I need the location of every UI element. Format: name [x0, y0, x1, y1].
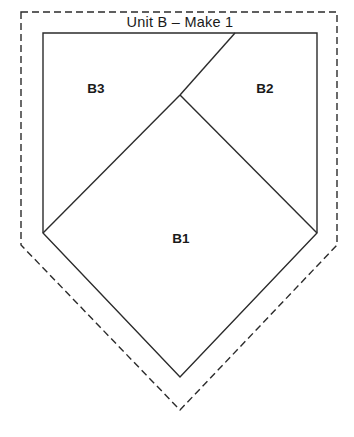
seam-line-b1-b2 [180, 95, 317, 233]
piece-label-b3: B3 [87, 81, 105, 96]
seam-line-b2-b3 [180, 33, 235, 95]
seam-allowance-outline [21, 12, 337, 410]
quilt-unit-diagram: Unit B – Make 1 B3 B2 B1 [0, 0, 354, 437]
piece-label-b1: B1 [172, 231, 190, 246]
seam-line-b1-b3 [43, 95, 180, 233]
page-title: Unit B – Make 1 [127, 14, 234, 30]
piece-label-b2: B2 [256, 81, 274, 96]
pattern-diagram-stage: Unit B – Make 1 B3 B2 B1 [0, 0, 354, 437]
finished-unit-outline [43, 33, 317, 377]
